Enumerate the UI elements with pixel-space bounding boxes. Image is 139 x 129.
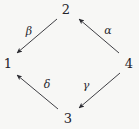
edge-label-gamma: γ — [83, 80, 90, 91]
commutative-diagram: 2 1 4 3 α β γ δ — [0, 0, 139, 129]
vertex-label-3: 3 — [64, 112, 72, 125]
vertex-label-4: 4 — [125, 57, 133, 70]
arrow-beta — [17, 19, 57, 53]
arrow-delta — [17, 75, 58, 109]
vertex-label-1: 1 — [4, 57, 12, 70]
edge-label-alpha: α — [104, 25, 111, 36]
edge-label-beta: β — [26, 26, 32, 37]
vertex-label-2: 2 — [62, 3, 70, 16]
arrow-alpha — [79, 19, 119, 53]
edge-label-delta: δ — [44, 79, 51, 90]
